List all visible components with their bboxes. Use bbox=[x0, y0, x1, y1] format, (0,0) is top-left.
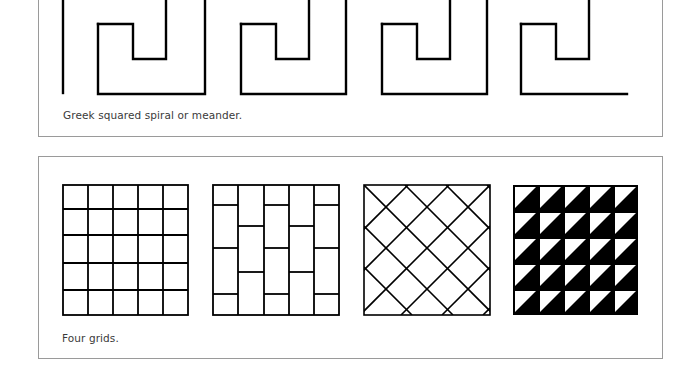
grids-caption: Four grids. bbox=[62, 332, 119, 344]
meander-drawing bbox=[63, 0, 627, 94]
square-grid bbox=[63, 185, 188, 315]
meander-caption: Greek squared spiral or meander. bbox=[63, 109, 242, 121]
figure-drawings bbox=[0, 0, 693, 370]
brick-grid bbox=[213, 185, 339, 315]
triangle-grid bbox=[513, 185, 638, 315]
